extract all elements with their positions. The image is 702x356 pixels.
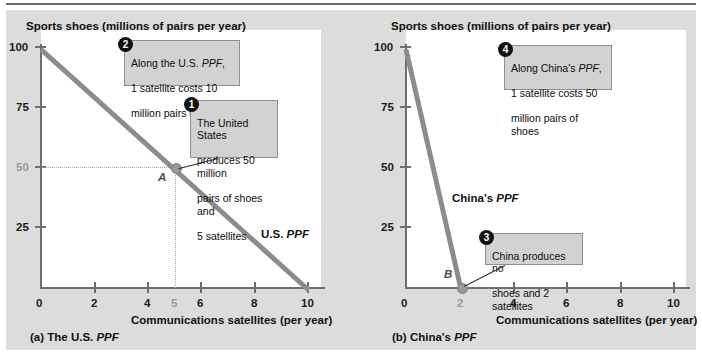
x-tick-us-6 bbox=[200, 282, 202, 293]
x-tick-china-10 bbox=[673, 282, 675, 293]
x-tick-china-8 bbox=[620, 282, 622, 293]
x-axis-title-us: Communications satellites (per year) bbox=[131, 314, 332, 326]
x-tick-label-us-6: 6 bbox=[197, 297, 203, 309]
x-tick-label-us-10: 10 bbox=[301, 297, 314, 309]
panel-caption-china-italic: PPF bbox=[454, 331, 476, 343]
callout-us-1: The United States produces 50 million pa… bbox=[190, 100, 278, 158]
ppf-label-us-prefix: U.S. bbox=[261, 228, 287, 240]
callout-us-2-line2: 1 satellite costs 10 bbox=[131, 82, 217, 94]
x-tick-label-us-5: 5 bbox=[171, 297, 177, 309]
x-tick-us-2 bbox=[94, 282, 96, 293]
ppf-label-us-italic: PPF bbox=[287, 228, 309, 240]
y-tick-china-25 bbox=[400, 226, 411, 228]
y-tick-china-100 bbox=[400, 46, 411, 48]
panel-caption-us: (a) The U.S. PPF bbox=[30, 331, 119, 343]
y-tick-label-us-25: 25 bbox=[16, 221, 29, 233]
ppf-comparison-figure: Sports shoes (millions of pairs per year… bbox=[0, 0, 702, 356]
callout-us-2: Along the U.S. PPF, 1 satellite costs 10… bbox=[124, 40, 240, 86]
callout-us-2-line1-post: , bbox=[222, 57, 225, 69]
callout-china-3: China produces no shoes and 2 satellites bbox=[485, 233, 583, 265]
ppf-label-china: China's PPF bbox=[452, 192, 519, 204]
top-divider-rule bbox=[6, 3, 696, 5]
y-tick-china-75 bbox=[400, 106, 411, 108]
x-tick-label-us-4: 4 bbox=[144, 297, 150, 309]
callout-us-1-line4: 5 satellites bbox=[197, 230, 247, 242]
x-axis-title-china: Communications satellites (per year) bbox=[496, 314, 697, 326]
callout-us-1-line1: The United States bbox=[197, 117, 248, 142]
callout-us-2-line1-pre: Along the U.S. bbox=[131, 57, 202, 69]
callout-china-4-line1-pre: Along China's bbox=[511, 62, 578, 74]
ppf-label-china-italic: PPF bbox=[496, 192, 518, 204]
y-tick-us-100 bbox=[35, 46, 46, 48]
y-tick-label-us-0: 0 bbox=[36, 297, 42, 309]
callout-badge-1: 1 bbox=[184, 97, 199, 112]
callout-china-4: Along China's PPF, 1 satellite costs 50 … bbox=[504, 45, 612, 90]
x-tick-us-4 bbox=[147, 282, 149, 293]
guide-horizontal-us-50 bbox=[42, 167, 175, 168]
point-b-label: B bbox=[444, 268, 452, 280]
y-tick-label-us-75: 75 bbox=[16, 101, 29, 113]
x-tick-label-china-6: 6 bbox=[563, 297, 569, 309]
callout-badge-3: 3 bbox=[479, 230, 494, 245]
x-tick-label-china-8: 8 bbox=[617, 297, 623, 309]
y-axis-title-china: Sports shoes (millions of pairs per year… bbox=[391, 20, 611, 32]
y-tick-label-us-100: 100 bbox=[9, 41, 28, 53]
y-tick-label-china-100: 100 bbox=[374, 41, 393, 53]
callout-china-4-line1-post: , bbox=[599, 62, 602, 74]
callout-badge-4: 4 bbox=[498, 42, 513, 57]
panel-caption-us-prefix: (a) The U.S. bbox=[30, 331, 96, 343]
y-tick-us-25 bbox=[35, 226, 46, 228]
y-tick-label-china-25: 25 bbox=[381, 221, 394, 233]
x-tick-us-8 bbox=[254, 282, 256, 293]
y-tick-label-china-0: 0 bbox=[401, 297, 407, 309]
ppf-label-china-prefix: China's bbox=[452, 192, 496, 204]
y-tick-label-china-75: 75 bbox=[381, 101, 394, 113]
x-tick-label-us-2: 2 bbox=[91, 297, 97, 309]
y-tick-us-75 bbox=[35, 106, 46, 108]
panel-caption-us-italic: PPF bbox=[96, 331, 118, 343]
y-tick-label-us-50: 50 bbox=[16, 161, 29, 173]
guide-vertical-us-5 bbox=[175, 167, 176, 288]
point-a-label: A bbox=[158, 171, 166, 183]
x-tick-label-china-10: 10 bbox=[667, 297, 680, 309]
x-tick-china-6 bbox=[566, 282, 568, 293]
y-tick-label-china-50: 50 bbox=[381, 161, 394, 173]
panel-caption-china: (b) China's PPF bbox=[392, 331, 477, 343]
callout-china-4-line1-italic: PPF bbox=[578, 62, 598, 74]
y-tick-china-50 bbox=[400, 166, 411, 168]
panel-caption-china-prefix: (b) China's bbox=[392, 331, 454, 343]
x-tick-label-china-2: 2 bbox=[457, 297, 463, 309]
x-tick-label-us-8: 8 bbox=[251, 297, 257, 309]
y-axis-title-us: Sports shoes (millions of pairs per year… bbox=[26, 20, 246, 32]
callout-us-2-line1-italic: PPF bbox=[202, 57, 222, 69]
x-axis-us bbox=[40, 287, 325, 289]
callout-china-4-line2: 1 satellite costs 50 bbox=[511, 87, 597, 99]
callout-badge-2: 2 bbox=[118, 37, 133, 52]
ppf-label-us: U.S. PPF bbox=[261, 228, 309, 240]
